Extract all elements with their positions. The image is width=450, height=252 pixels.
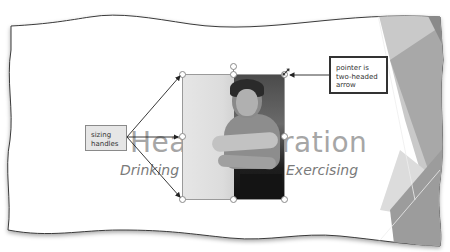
- callout-sizing-line1: sizing: [91, 131, 126, 140]
- callout-pointer: pointer is two-headed arrow: [329, 56, 388, 94]
- callout-pointer-line2: two-headed: [336, 73, 386, 82]
- callout-leader-lines: [0, 0, 450, 252]
- callout-sizing-line2: handles: [91, 140, 126, 149]
- callout-pointer-line3: arrow: [336, 81, 386, 90]
- callout-sizing-handles: sizing handles: [85, 125, 127, 151]
- two-headed-arrow-icon: [281, 67, 291, 77]
- callout-pointer-line1: pointer is: [336, 64, 386, 73]
- slide-illustration: Hea ration Drinking Exercising: [0, 0, 450, 252]
